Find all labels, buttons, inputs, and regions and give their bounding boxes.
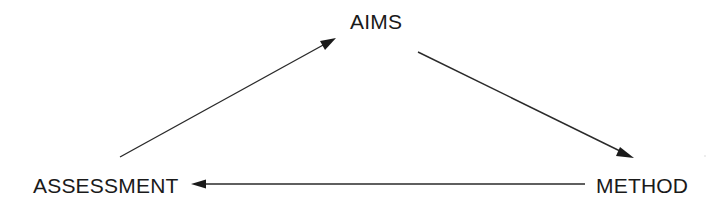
- edge-aims-to-method: [418, 52, 634, 158]
- edge-line: [120, 44, 325, 157]
- edge-line: [418, 52, 622, 152]
- arrow-head-icon: [191, 180, 206, 189]
- arrow-head-icon: [616, 147, 634, 158]
- diagram-canvas: AIMS METHOD ASSESSMENT: [0, 0, 717, 205]
- edge-method-to-assessment: [191, 180, 585, 189]
- edge-assessment-to-aims: [120, 38, 336, 157]
- node-aims: AIMS: [350, 10, 402, 33]
- cycle-diagram: AIMS METHOD ASSESSMENT: [0, 0, 717, 205]
- node-method: METHOD: [596, 174, 688, 197]
- arrow-head-icon: [320, 38, 336, 50]
- scan-speck: [704, 155, 706, 157]
- node-assessment: ASSESSMENT: [33, 174, 179, 197]
